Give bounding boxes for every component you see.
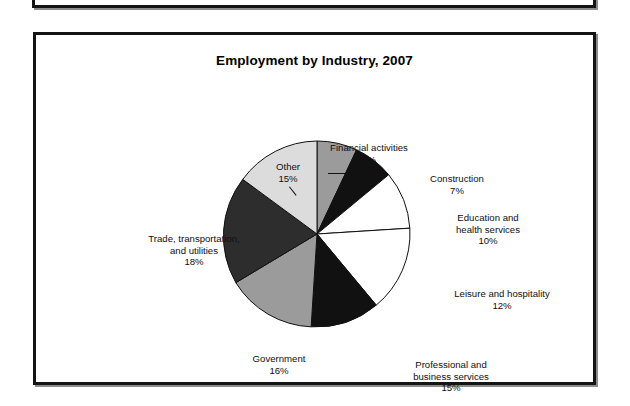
pie-label-text: Other xyxy=(276,161,300,172)
pie-label-trade-transportation-and-utilities: Trade, transportation, and utilities 18% xyxy=(132,233,256,268)
pie-label-other: Other 15% xyxy=(248,161,328,184)
pie-label-percent: 15% xyxy=(248,173,328,185)
pie-label-text-line1: Education and xyxy=(457,212,518,223)
pie-label-percent: 10% xyxy=(434,235,542,247)
pie-label-percent: 18% xyxy=(132,256,256,268)
pie-label-percent: 16% xyxy=(224,365,334,377)
pie-label-government: Government 16% xyxy=(224,353,334,376)
pie-label-text: Construction xyxy=(430,173,484,184)
pie-label-construction: Construction 7% xyxy=(405,173,509,196)
pie-label-text-line2: health services xyxy=(456,224,520,235)
pie-label-percent: 7% xyxy=(405,185,509,197)
pie-label-text: Government xyxy=(253,353,306,364)
pie-label-education-and-health-services: Education and health services 10% xyxy=(434,212,542,247)
pie-label-text-line1: Professional and xyxy=(415,359,486,370)
figure-frame: Employment by Industry, 2007 Financial a… xyxy=(33,32,596,385)
pie-label-text: Financial activities xyxy=(330,142,408,153)
pie-label-text-line1: Trade, transportation, xyxy=(148,233,239,244)
pie-label-professional-and-business-services: Professional and business services 15% xyxy=(387,359,515,394)
leader-line-financial-activities xyxy=(328,173,350,174)
pie-label-percent: 15% xyxy=(387,382,515,394)
pie-label-text: Leisure and hospitality xyxy=(454,288,549,299)
preceding-figure-box-partial xyxy=(32,0,596,8)
chart-title: Employment by Industry, 2007 xyxy=(36,53,593,68)
pie-label-text-line2: and utilities xyxy=(170,245,218,256)
pie-label-leisure-and-hospitality: Leisure and hospitality 12% xyxy=(438,288,566,311)
pie-label-percent: 12% xyxy=(438,300,566,312)
pie-label-text-line2: business services xyxy=(413,371,489,382)
